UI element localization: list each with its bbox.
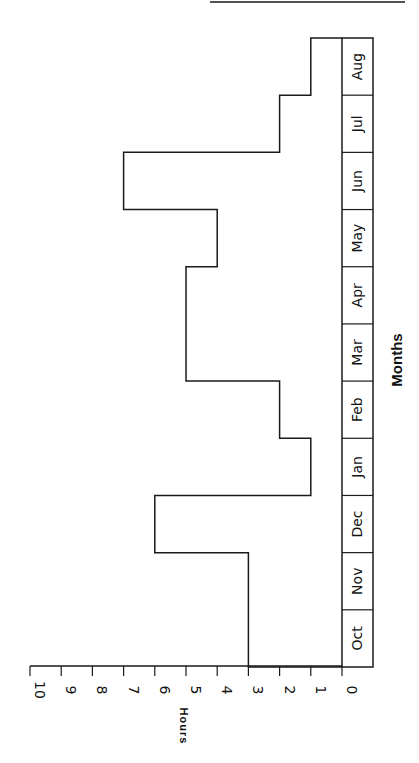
hours-tick-label: 7 — [126, 686, 142, 695]
month-label: Nov — [349, 568, 365, 595]
hours-axis: 012345678910 — [30, 666, 360, 699]
hours-tick-label: 6 — [157, 686, 173, 695]
month-label: Jan — [349, 456, 365, 479]
month-axis: OctNovDecJanFebMarAprMayJunJulAug — [342, 38, 373, 667]
month-label: Apr — [349, 283, 365, 307]
hours-tick-label: 1 — [313, 686, 329, 695]
month-label: Mar — [349, 339, 365, 366]
hours-tick-label: 10 — [32, 681, 48, 699]
hours-tick-label: 8 — [94, 686, 110, 695]
month-label: May — [349, 224, 365, 253]
hours-tick-label: 5 — [188, 686, 204, 695]
month-label: Jun — [349, 170, 365, 193]
months-axis-title: Months — [388, 333, 405, 386]
bars-outline — [124, 38, 342, 667]
hours-axis-title: Hours — [178, 708, 190, 745]
hours-tick-label: 0 — [344, 686, 360, 695]
hours-tick-label: 9 — [63, 686, 79, 695]
hours-tick-label: 3 — [250, 686, 266, 695]
month-label: Aug — [349, 53, 365, 80]
hours-by-month-chart: 012345678910 OctNovDecJanFebMarAprMayJun… — [0, 0, 419, 763]
month-label: Oct — [349, 626, 365, 651]
month-label: Jul — [349, 115, 365, 133]
month-label: Dec — [349, 510, 365, 537]
hours-tick-label: 2 — [282, 686, 298, 695]
month-label: Feb — [349, 397, 365, 422]
hours-tick-label: 4 — [219, 686, 235, 695]
